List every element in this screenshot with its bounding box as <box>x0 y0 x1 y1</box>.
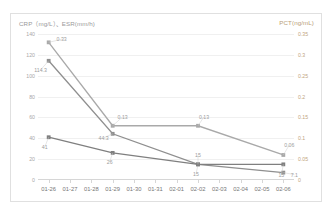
x-axis-tick-label: 02-05 <box>255 186 270 192</box>
series-line-esr <box>49 137 284 164</box>
x-axis-tick-label: 02-01 <box>169 186 184 192</box>
data-point-label: 7.1 <box>291 172 298 178</box>
data-point-label: 15 <box>193 171 199 177</box>
y-axis-right-tick-label: 0.3 <box>298 52 305 58</box>
y-axis-left-tick-label: 40 <box>29 135 35 141</box>
data-point-label: 0.06 <box>284 142 294 148</box>
y-axis-right-tick-label: 0 <box>298 177 301 183</box>
x-axis-tickmark <box>177 180 178 183</box>
plot-area: 020406080100120140 00.050.10.150.20.250.… <box>38 34 294 180</box>
x-axis-tickmark <box>70 180 71 183</box>
series-line-crp <box>49 61 284 173</box>
y-axis-left-tick-label: 0 <box>32 177 35 183</box>
y-axis-right-tick-label: 0.15 <box>298 114 308 120</box>
x-axis-tickmark <box>219 180 220 183</box>
data-point-label: 114.3 <box>34 67 47 73</box>
y-axis-left-tick-label: 140 <box>26 31 35 37</box>
x-axis-tick-label: 02-02 <box>191 186 206 192</box>
y-axis-right-tick-label: 0.2 <box>298 94 305 100</box>
y-axis-right-tick-label: 0.35 <box>298 31 308 37</box>
data-point-label: 44.3 <box>99 135 109 141</box>
right-axis-title: PCT(ng/mL) <box>279 19 314 26</box>
y-axis-right-tick-label: 0.05 <box>298 156 308 162</box>
x-axis-tick-label: 02-04 <box>233 186 248 192</box>
x-axis-tickmark <box>283 180 284 183</box>
x-axis-tickmark <box>155 180 156 183</box>
x-axis-tick-label: 01-31 <box>148 186 163 192</box>
data-point-label: 15 <box>195 152 201 158</box>
y-axis-right-tick-label: 0.25 <box>298 73 308 79</box>
data-point-marker <box>281 153 285 157</box>
x-axis-tick-label: 01-29 <box>105 186 120 192</box>
y-axis-left-tick-label: 80 <box>29 94 35 100</box>
data-point-label: 0.13 <box>118 114 128 120</box>
y-axis-left-tick-label: 60 <box>29 114 35 120</box>
left-axis-title: CRP（mg/L）、ESR(mm/h) <box>19 19 95 28</box>
data-point-marker <box>47 135 51 139</box>
x-axis-tickmark <box>113 180 114 183</box>
y-axis-left-tick-label: 20 <box>29 156 35 162</box>
y-axis-left-tick-label: 100 <box>26 73 35 79</box>
x-axis-tickmark <box>49 180 50 183</box>
series-line-pct <box>49 42 284 155</box>
x-axis-tick-label: 01-26 <box>41 186 56 192</box>
x-axis-tick-label: 01-28 <box>84 186 99 192</box>
data-point-label: 26 <box>107 159 113 165</box>
data-point-label: 0.13 <box>199 114 209 120</box>
data-point-label: 41 <box>42 144 48 150</box>
x-axis-tickmark <box>198 180 199 183</box>
y-axis-left-tick-label: 120 <box>26 52 35 58</box>
chart-frame: CRP（mg/L）、ESR(mm/h) PCT(ng/mL) 020406080… <box>10 13 322 202</box>
x-axis-tickmark <box>91 180 92 183</box>
x-axis-tick-label: 02-03 <box>212 186 227 192</box>
data-point-marker <box>47 40 51 44</box>
y-axis-right-tick-label: 0.1 <box>298 135 305 141</box>
data-point-marker <box>196 124 200 128</box>
chart-screenshot: CRP（mg/L）、ESR(mm/h) PCT(ng/mL) 020406080… <box>0 0 334 214</box>
x-axis-tick-label: 02-06 <box>276 186 291 192</box>
data-point-label: 0.33 <box>57 36 67 42</box>
series-lines <box>38 34 294 180</box>
x-axis-tickmark <box>241 180 242 183</box>
x-axis-tick-label: 01-30 <box>127 186 142 192</box>
x-axis-tickmark <box>262 180 263 183</box>
x-axis-tick-label: 01-27 <box>63 186 78 192</box>
x-axis-tickmark <box>134 180 135 183</box>
data-point-label: 15 <box>278 172 284 178</box>
